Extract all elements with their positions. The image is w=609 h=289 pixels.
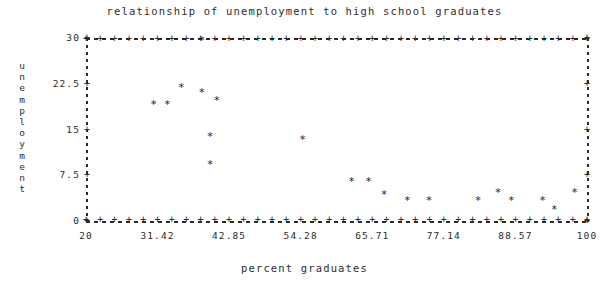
x-minor-tick-bottom: + (469, 215, 476, 225)
x-axis-title: percent graduates (0, 262, 609, 274)
x-minor-tick-top: + (311, 34, 318, 44)
y-axis-title-char: m (16, 150, 28, 161)
x-tick-label: 100 (577, 231, 597, 241)
data-point: * (163, 99, 172, 110)
y-tick-left: + (84, 170, 91, 180)
x-minor-tick-bottom: + (269, 215, 276, 225)
y-axis-title-char: o (16, 127, 28, 138)
y-tick-left: + (84, 33, 91, 43)
x-minor-tick-bottom: + (97, 215, 104, 225)
data-point: * (205, 158, 214, 169)
data-point: * (197, 86, 206, 97)
x-minor-tick-top: + (569, 34, 576, 44)
x-minor-tick-bottom: + (140, 215, 147, 225)
x-minor-tick-top: + (254, 34, 261, 44)
x-minor-tick-top: + (383, 34, 390, 44)
x-minor-tick-bottom: + (397, 215, 404, 225)
y-axis-title-char: p (16, 105, 28, 116)
x-tick-top: + (297, 34, 304, 44)
x-minor-tick-top: + (483, 34, 490, 44)
x-minor-tick-top: + (125, 34, 132, 44)
data-point: * (570, 187, 579, 198)
x-tick-top: + (154, 34, 161, 44)
y-axis-title-char: n (16, 172, 28, 183)
y-tick-right: + (584, 170, 591, 180)
data-point: * (212, 94, 221, 105)
y-axis-title-char: e (16, 82, 28, 93)
x-tick-label: 54.28 (284, 231, 318, 241)
x-minor-tick-bottom: + (555, 215, 562, 225)
y-tick-label: 22.5 (34, 79, 80, 89)
x-tick-label: 42.85 (212, 231, 246, 241)
y-tick-right: + (584, 125, 591, 135)
y-tick-left: + (84, 79, 91, 89)
data-point: * (474, 195, 483, 206)
x-minor-tick-bottom: + (211, 215, 218, 225)
y-tick-label: 7.5 (34, 170, 80, 180)
y-tick-label: 0 (34, 216, 80, 226)
x-minor-tick-top: + (168, 34, 175, 44)
y-tick-right: + (584, 33, 591, 43)
x-tick-label: 77.14 (427, 231, 461, 241)
data-point: * (538, 195, 547, 206)
y-tick-label: 15 (34, 125, 80, 135)
x-minor-tick-bottom: + (326, 215, 333, 225)
x-minor-tick-top: + (269, 34, 276, 44)
y-axis-title-char: m (16, 94, 28, 105)
x-minor-tick-bottom: + (541, 215, 548, 225)
x-tick-label: 88.57 (498, 231, 532, 241)
y-tick-label: 30 (34, 33, 80, 43)
y-axis-title-char: y (16, 138, 28, 149)
x-minor-tick-bottom: + (197, 215, 204, 225)
x-tick-bottom: + (226, 215, 233, 225)
x-minor-tick-bottom: + (311, 215, 318, 225)
x-tick-bottom: + (369, 215, 376, 225)
x-minor-tick-bottom: + (183, 215, 190, 225)
x-minor-tick-top: + (498, 34, 505, 44)
x-minor-tick-top: + (526, 34, 533, 44)
y-tick-left: + (84, 216, 91, 226)
data-point: * (494, 187, 503, 198)
x-minor-tick-top: + (555, 34, 562, 44)
x-tick-bottom: + (154, 215, 161, 225)
x-minor-tick-bottom: + (168, 215, 175, 225)
x-minor-tick-top: + (283, 34, 290, 44)
x-minor-tick-top: + (97, 34, 104, 44)
x-minor-tick-top: + (426, 34, 433, 44)
x-tick-label: 65.71 (355, 231, 389, 241)
data-point: * (507, 195, 516, 206)
x-minor-tick-bottom: + (125, 215, 132, 225)
x-minor-tick-top: + (326, 34, 333, 44)
x-tick-label: 20 (79, 231, 93, 241)
x-minor-tick-top: + (469, 34, 476, 44)
x-tick-top: + (226, 34, 233, 44)
x-minor-tick-top: + (397, 34, 404, 44)
x-minor-tick-top: + (354, 34, 361, 44)
y-axis-title-char: e (16, 161, 28, 172)
data-point: * (403, 195, 412, 206)
x-minor-tick-bottom: + (412, 215, 419, 225)
data-point: * (298, 134, 307, 145)
x-minor-tick-bottom: + (283, 215, 290, 225)
y-axis-title-char: u (16, 60, 28, 71)
x-tick-bottom: + (440, 215, 447, 225)
data-point: * (347, 175, 356, 186)
x-minor-tick-bottom: + (483, 215, 490, 225)
x-minor-tick-bottom: + (498, 215, 505, 225)
x-tick-bottom: + (512, 215, 519, 225)
x-minor-tick-top: + (412, 34, 419, 44)
x-minor-tick-bottom: + (526, 215, 533, 225)
x-minor-tick-bottom: + (111, 215, 118, 225)
x-tick-top: + (512, 34, 519, 44)
plot-area: ++++++++++++++++++++++++++++++++++++++++… (86, 38, 589, 222)
data-point: * (149, 99, 158, 110)
x-tick-bottom: + (297, 215, 304, 225)
x-minor-tick-bottom: + (340, 215, 347, 225)
data-point: * (177, 81, 186, 92)
y-tick-right: + (584, 216, 591, 226)
x-minor-tick-bottom: + (455, 215, 462, 225)
y-tick-right: + (584, 79, 591, 89)
chart-canvas: relationship of unemployment to high sch… (0, 0, 609, 289)
x-minor-tick-bottom: + (240, 215, 247, 225)
x-minor-tick-bottom: + (426, 215, 433, 225)
